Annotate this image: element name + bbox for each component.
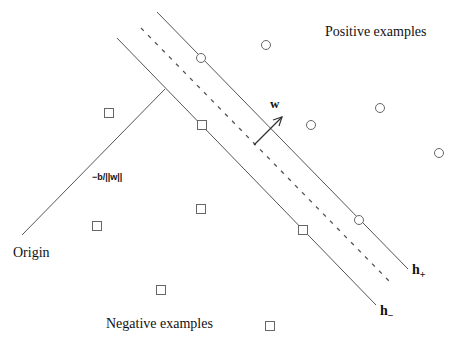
- negative-examples-label: Negative examples: [106, 316, 213, 332]
- origin-perpendicular-line: [22, 89, 165, 235]
- negative-point-square-icon: [299, 226, 308, 235]
- origin-label: Origin: [13, 245, 50, 261]
- w-label: w: [270, 96, 279, 112]
- hyperplane-h-plus: [157, 12, 408, 269]
- svm-margin-diagram: Positive examples Negative examples Orig…: [0, 0, 451, 343]
- positive-points: [197, 41, 444, 225]
- positive-point-circle-icon: [197, 54, 206, 63]
- positive-point-circle-icon: [262, 41, 271, 50]
- offset-label: −b/||w||: [92, 172, 122, 182]
- h-plus-label: h+: [412, 262, 426, 280]
- negative-point-square-icon: [197, 205, 206, 214]
- diagram-canvas: [0, 0, 451, 343]
- w-vector-arrow: [254, 117, 282, 145]
- positive-examples-label: Positive examples: [325, 24, 427, 40]
- negative-point-square-icon: [157, 286, 166, 295]
- hyperplane-h-minus: [117, 38, 376, 305]
- positive-point-circle-icon: [307, 121, 316, 130]
- positive-point-circle-icon: [435, 149, 444, 158]
- decision-boundary-dashed: [141, 28, 391, 283]
- negative-point-square-icon: [93, 222, 102, 231]
- positive-point-circle-icon: [355, 216, 364, 225]
- positive-point-circle-icon: [376, 104, 385, 113]
- negative-point-square-icon: [198, 121, 207, 130]
- negative-point-square-icon: [266, 322, 275, 331]
- h-minus-label: h−: [380, 303, 394, 321]
- negative-points: [93, 109, 308, 331]
- negative-point-square-icon: [105, 109, 114, 118]
